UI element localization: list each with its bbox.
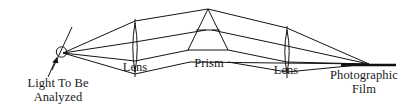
ray-segment <box>63 42 135 53</box>
ray-segment <box>287 28 369 64</box>
ray-segment <box>135 9 208 21</box>
entrance-slit <box>52 27 72 70</box>
ray-segment <box>287 46 369 64</box>
ray-segment <box>212 30 287 46</box>
photographic-film-label: Photographic Film <box>318 68 410 96</box>
ray-segment <box>208 9 287 28</box>
film-label-line2: Film <box>318 82 410 96</box>
lens-right-label: Lens <box>248 64 324 77</box>
light-source-label-line1: Light To Be <box>2 76 114 90</box>
optics-diagram: Light To Be Analyzed Lens Prism Lens Pho… <box>0 0 410 109</box>
ray-segment <box>63 21 135 53</box>
light-source-label-line2: Analyzed <box>2 90 114 104</box>
dispersing-prism <box>188 9 228 50</box>
lens-left-label: Lens <box>97 61 173 74</box>
slit-diagonal-line <box>52 27 72 70</box>
film-label-line1: Photographic <box>318 68 410 82</box>
prism-label: Prism <box>178 57 240 70</box>
light-source-label: Light To Be Analyzed <box>2 76 114 104</box>
arrow-shaft <box>48 61 55 77</box>
